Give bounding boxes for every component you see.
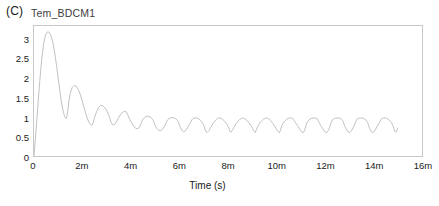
x-axis-title: Time (s) — [0, 180, 439, 191]
x-tick-label: 8m — [221, 160, 234, 171]
x-axis-title-text: Time (s) — [189, 180, 225, 191]
x-tick-label: 0 — [30, 160, 35, 171]
series-title: Tem_BDCM1 — [31, 7, 95, 19]
plot-area — [33, 25, 423, 157]
plot-svg — [34, 26, 422, 156]
x-tick-label: 16m — [414, 160, 432, 171]
y-tick-label: 2.5 — [16, 53, 29, 64]
y-tick-label: 3 — [24, 33, 29, 44]
series-line-tem-bdcm1 — [34, 32, 398, 156]
x-tick-label: 10m — [268, 160, 286, 171]
x-tick-label: 14m — [365, 160, 383, 171]
y-tick-label: 2 — [24, 73, 29, 84]
y-tick-label: 0.5 — [16, 132, 29, 143]
x-tick-label: 6m — [173, 160, 186, 171]
figure-panel: (C) Tem_BDCM1 00.511.522.53 Time (s) 02m… — [0, 0, 439, 206]
y-axis-tick-labels: 00.511.522.53 — [0, 0, 29, 206]
x-tick-label: 12m — [316, 160, 334, 171]
y-tick-label: 1.5 — [16, 92, 29, 103]
y-tick-label: 1 — [24, 112, 29, 123]
x-tick-label: 2m — [75, 160, 88, 171]
x-tick-label: 4m — [124, 160, 137, 171]
y-tick-label: 0 — [24, 152, 29, 163]
